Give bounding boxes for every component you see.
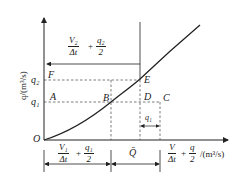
y-axis-label: q/(m³/s) [18,71,28,100]
point-f-label: F [48,70,54,80]
top-frac-1: V₂ Δt [68,36,79,57]
bottom-left-frac-1: V₁ Δt [58,143,69,164]
bottom-left-plus: + [76,149,81,158]
point-c-label: C [163,93,170,103]
point-a-label: A [50,92,56,102]
point-b-label: B [103,93,109,103]
bottom-right-frac-2: q 2 [189,143,196,164]
dc-width-label: q₁ [145,114,152,122]
q2-tick-label: q₂ [31,75,39,85]
origin-label: O [33,134,40,144]
bottom-mid-label: Q̄ [129,148,136,158]
top-plus: + [88,42,93,51]
top-frac-2: q₂ 2 [96,36,106,57]
bottom-right-plus: + [181,149,186,158]
bottom-right-frac-1: V Δt [168,143,176,164]
q1-tick-label: q₁ [31,97,39,107]
point-e-label: E [144,75,150,85]
point-d-label: D [144,92,151,102]
x-axis-unit: /(m³/s) [200,149,224,159]
bottom-left-frac-2: q₁ 2 [84,143,94,164]
